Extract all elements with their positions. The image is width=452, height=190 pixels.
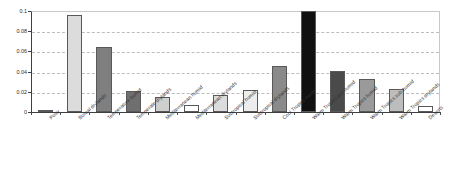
x-axis-label-text: Warm Tropics sub-humid [369, 116, 373, 120]
x-axis-label-text: Mediterranean drylands [194, 116, 198, 120]
x-axis-label-text: Cool Tropics moist [281, 116, 285, 120]
x-axis-label-text: Temperate drylands [135, 116, 139, 120]
y-axis-tick-label: 0.02 [1, 89, 27, 95]
y-axis-tick-label: 0.04 [1, 69, 27, 75]
x-axis-label-text: Boreal drylands [77, 116, 81, 120]
x-axis-label-text: Polar [48, 116, 52, 120]
x-axis-label-text: Warm Tropics drylands [398, 116, 402, 120]
x-axis-tick-mark [294, 112, 295, 115]
bar [67, 15, 82, 112]
x-axis-tick-mark [31, 112, 32, 115]
x-axis-tick-mark [177, 112, 178, 115]
x-axis-tick-mark [440, 112, 441, 115]
bar-chart: 00.020.040.060.080.1 PolarBoreal dryland… [0, 0, 452, 190]
x-axis-label-text: Warm Tropics per-humid [311, 116, 315, 120]
y-axis-tick-label: 0.06 [1, 48, 27, 54]
y-axis-tick-label: 0.08 [1, 28, 27, 34]
x-axis-tick-mark [148, 112, 149, 115]
x-axis-label-text: Subtropical drylands [252, 116, 256, 120]
x-axis-label-text: Temperature humid [106, 116, 110, 120]
y-axis-tick-label: 0.1 [1, 8, 27, 14]
bar [184, 105, 199, 112]
x-axis-label-text: Mediterranean humid [164, 116, 168, 120]
y-axis-tick-label: 0 [1, 109, 27, 115]
x-axis-label-text: Deserts [427, 116, 431, 120]
bars-layer [31, 11, 440, 112]
x-axis-label-text: Warm Tropics humid [340, 116, 344, 120]
x-axis-label-text: Subtropical humid [223, 116, 227, 120]
